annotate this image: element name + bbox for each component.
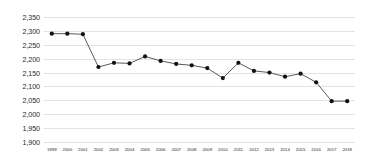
data-point: [65, 32, 69, 36]
y-axis-tick-label: 2,250: [23, 40, 41, 49]
x-axis-tick-label: 2014: [280, 147, 290, 152]
y-axis-tick-label: 1,900: [23, 138, 41, 147]
data-point: [205, 66, 209, 70]
data-point: [267, 70, 271, 74]
y-axis-tick-label: 2,300: [23, 26, 41, 35]
x-axis-tick-label: 1999: [47, 147, 57, 152]
data-point: [314, 80, 318, 84]
series-markers: [50, 32, 350, 104]
data-point: [345, 99, 349, 103]
x-axis-tick-label: 2001: [78, 147, 88, 152]
x-axis-tick-label: 2007: [171, 147, 181, 152]
x-axis-tick-label: 2008: [187, 147, 197, 152]
data-point: [96, 65, 100, 69]
x-axis-tick-label: 2009: [202, 147, 212, 152]
y-axis-tick-label: 1,950: [23, 124, 41, 133]
plot-area: [44, 17, 355, 142]
x-axis-tick-label: 2002: [94, 147, 104, 152]
data-point: [252, 69, 256, 73]
data-point: [112, 61, 116, 65]
x-axis-tick-label: 2005: [140, 147, 150, 152]
x-axis-tick-label: 2012: [249, 147, 259, 152]
x-axis-tick-label: 2006: [156, 147, 166, 152]
data-point: [50, 32, 54, 36]
x-axis-tick-label: 2017: [327, 147, 337, 152]
data-point: [190, 63, 194, 67]
x-axis-tick-label: 2013: [265, 147, 275, 152]
y-axis-tick-label: 2,200: [23, 54, 41, 63]
x-axis-tick-label: 2016: [311, 147, 321, 152]
x-axis-tick-label: 2004: [125, 147, 135, 152]
data-point: [221, 76, 225, 80]
x-axis-tick-label: 2011: [234, 147, 243, 152]
x-axis-tick-label: 2010: [218, 147, 228, 152]
data-point: [174, 62, 178, 66]
y-axis-tick-label: 2,050: [23, 96, 41, 105]
series-layer: [44, 17, 355, 142]
x-axis-tick-label: 2015: [296, 147, 306, 152]
data-point: [330, 99, 334, 103]
y-axis-tick-label: 2,000: [23, 110, 41, 119]
data-point: [159, 59, 163, 63]
data-point: [81, 32, 85, 36]
series-line: [52, 34, 347, 102]
data-point: [127, 61, 131, 65]
y-axis-tick-label: 2,350: [23, 13, 41, 22]
y-axis-tick-label: 2,100: [23, 82, 41, 91]
data-point: [143, 54, 147, 58]
x-axis-tick-labels: 1999200020012002200320042005200620072008…: [44, 145, 355, 159]
x-axis-tick-label: 2003: [109, 147, 119, 152]
line-chart: 1,9001,9502,0002,0502,1002,1502,2002,250…: [0, 0, 372, 166]
gridline: [44, 142, 355, 143]
y-axis-tick-label: 2,150: [23, 68, 41, 77]
y-axis-tick-labels: 1,9001,9502,0002,0502,1002,1502,2002,250…: [0, 17, 40, 142]
x-axis-tick-label: 2000: [63, 147, 73, 152]
data-point: [283, 75, 287, 79]
data-point: [236, 61, 240, 65]
data-point: [298, 72, 302, 76]
x-axis-tick-label: 2018: [342, 147, 352, 152]
